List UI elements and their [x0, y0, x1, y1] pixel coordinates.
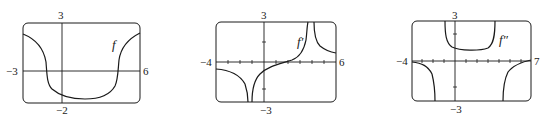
y-min-label: −2 [56, 105, 68, 116]
x-min-label: −4 [396, 56, 408, 67]
y-min-label: −3 [260, 105, 272, 116]
y-max-label: 3 [261, 10, 267, 21]
x-min-label: −4 [200, 57, 212, 68]
graph-f-double-prime-plot [360, 0, 542, 119]
graph-f-plot [0, 0, 180, 119]
y-max-label: 3 [452, 10, 458, 21]
graph-f-double-prime: 3 −3 −4 7 f″ [360, 0, 540, 119]
x-max-label: 6 [143, 66, 149, 77]
function-label: f″ [499, 33, 508, 46]
x-max-label: 7 [534, 56, 540, 67]
graph-f: 3 −2 −3 6 f [0, 0, 180, 119]
y-min-label: −3 [450, 104, 462, 115]
y-max-label: 3 [58, 10, 64, 21]
graph-f-prime: 3 −3 −4 6 f′ [180, 0, 360, 119]
function-label: f′ [297, 35, 303, 48]
x-max-label: 6 [339, 57, 345, 68]
x-min-label: −3 [6, 66, 18, 77]
function-label: f [112, 38, 116, 51]
